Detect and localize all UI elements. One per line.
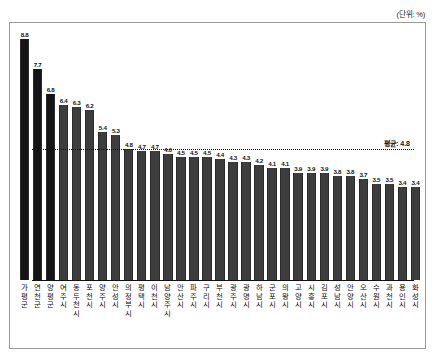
x-axis-label-item: 의정부시 [122,284,135,318]
bar-rect [150,151,159,280]
bar-item: 6.3 [70,28,83,280]
x-axis-label-item: 안산시 [174,284,187,310]
bar-rect [267,168,276,280]
x-axis-label-text: 포천시 [85,284,94,310]
x-axis-label-item: 고양시 [292,284,305,310]
bar-value-label: 4.5 [190,149,198,156]
bar-item: 4.5 [174,28,187,280]
x-axis-label-item: 광주시 [227,284,240,310]
bar-value-label: 4.5 [177,149,185,156]
chart-page: (단위: %) 8.87.76.86.46.36.25.45.34.84.74.… [0,0,435,358]
bar-item: 4.1 [266,28,279,280]
bar-item: 5.3 [109,28,122,280]
x-axis-label-text: 안산시 [176,284,185,310]
bar-item: 3.8 [331,28,344,280]
bar-item: 6.4 [57,28,70,280]
x-axis-label-item: 양주시 [96,284,109,310]
bar-item: 7.7 [31,28,44,280]
x-axis-label-text: 의왕시 [281,284,290,310]
bar-rect [359,179,368,280]
bar-rect [111,135,120,280]
bar-rect [202,157,211,280]
x-axis-label-item: 하남시 [253,284,266,310]
bar-value-label: 7.7 [34,61,42,68]
bar-item: 4.7 [135,28,148,280]
bar-rect [280,168,289,280]
bar-rect [20,39,29,280]
x-axis-label-item: 용인시 [396,284,409,310]
bar-value-label: 6.3 [73,99,81,106]
bar-rect [72,107,81,280]
bar-value-label: 4.3 [242,154,250,161]
x-axis-labels: 가평군연천군양평군여주시동두천시포천시양주시안성시의정부시평택시이천시남양주시안… [18,284,422,354]
bar-value-label: 5.4 [99,124,107,131]
bar-item: 4.4 [213,28,226,280]
x-axis-label-text: 연천군 [33,284,42,310]
x-axis-label-text: 의정부시 [124,284,133,318]
x-axis-label-item: 남양주시 [161,284,174,318]
x-axis-label-text: 하남시 [255,284,264,310]
x-axis-label-text: 김포시 [320,284,329,310]
bar-rect [411,187,420,280]
x-axis-label-text: 안성시 [111,284,120,310]
x-axis-label-item: 양평군 [44,284,57,310]
bar-value-label: 3.8 [333,168,341,175]
bar-rect [59,105,68,280]
x-axis-label-text: 평택시 [137,284,146,310]
bar-value-label: 3.9 [307,165,315,172]
bar-rect [398,187,407,280]
bar-value-label: 4.8 [125,141,133,148]
bar-rect [124,149,133,280]
bar-value-label: 3.8 [346,168,354,175]
bar-value-label: 6.8 [47,86,55,93]
bar-item: 3.9 [318,28,331,280]
average-label: 평균: 4.8 [384,138,410,148]
x-axis-label-item: 광명시 [240,284,253,310]
bar-item: 8.8 [18,28,31,280]
bar-value-label: 4.1 [281,160,289,167]
bar-rect [215,159,224,280]
x-axis-label-item: 포천시 [83,284,96,310]
x-axis-label-item: 의왕시 [279,284,292,310]
bar-rect [293,173,302,280]
bar-value-label: 4.5 [203,149,211,156]
x-axis-label-item: 군포시 [266,284,279,310]
x-axis-label-item: 평택시 [135,284,148,310]
x-axis-label-text: 용인시 [398,284,407,310]
x-axis-label-text: 시흥시 [307,284,316,310]
x-axis-label-item: 안양시 [344,284,357,310]
x-axis-label-text: 과천시 [385,284,394,310]
bar-item: 4.3 [240,28,253,280]
bar-item: 4.5 [187,28,200,280]
bar-item: 4.8 [122,28,135,280]
x-axis-label-text: 구리시 [202,284,211,310]
x-axis-label-text: 여주시 [59,284,68,310]
bar-item: 4.1 [279,28,292,280]
x-axis-label-text: 양주시 [98,284,107,310]
x-axis-label-item: 오산시 [357,284,370,310]
x-axis-label-text: 가평군 [20,284,29,310]
x-axis-label-text: 성남시 [333,284,342,310]
x-axis-label-item: 동두천시 [70,284,83,318]
bar-value-label: 3.5 [386,176,394,183]
bar-rect [176,157,185,280]
x-axis-label-text: 광명시 [242,284,251,310]
x-axis-label-item: 이천시 [148,284,161,310]
bar-rect [320,173,329,280]
x-axis-label-text: 오산시 [359,284,368,310]
bar-item: 6.2 [83,28,96,280]
bar-value-label: 3.4 [399,179,407,186]
x-axis-label-item: 김포시 [318,284,331,310]
bar-rect [333,176,342,280]
bar-item: 4.3 [227,28,240,280]
x-axis-label-item: 연천군 [31,284,44,310]
bar-value-label: 3.7 [359,171,367,178]
x-axis-label-item: 과천시 [383,284,396,310]
bar-item: 5.4 [96,28,109,280]
bar-rect [385,184,394,280]
unit-note: (단위: %) [397,8,425,19]
bar-value-label: 8.8 [21,31,29,38]
x-axis-label-item: 부천시 [213,284,226,310]
bar-rect [228,162,237,280]
bar-rect [346,176,355,280]
